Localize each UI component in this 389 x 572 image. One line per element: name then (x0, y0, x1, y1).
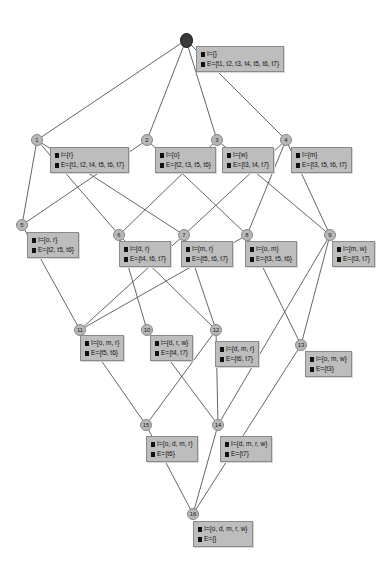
bullet-icon (225, 442, 229, 447)
intent-row: I={d, m, r, w} (225, 439, 267, 449)
lattice-edges (0, 0, 389, 572)
intent-row: I={o, d, m, r, w} (198, 524, 248, 534)
concept-label-box-9: I={m, w}E={t3, t7} (332, 241, 375, 267)
extent-text: E={t2, t5, t6} (38, 245, 74, 255)
extent-row: E={t6} (151, 449, 193, 459)
extent-row: E={t6, t7} (220, 354, 254, 364)
bullet-icon (227, 153, 231, 158)
concept-node-13[interactable]: 13 (295, 339, 307, 351)
extent-text: E={t6} (157, 449, 175, 459)
intent-text: I={o, m} (256, 244, 279, 254)
bullet-icon (85, 351, 89, 356)
extent-row: E={t4, t6, t7} (124, 254, 166, 264)
concept-label-box-3: I={w}E={t3, t4, t7} (222, 147, 274, 173)
intent-text: I={o} (166, 150, 180, 160)
bullet-icon (227, 163, 231, 168)
concept-node-0[interactable] (180, 33, 193, 48)
concept-node-16[interactable]: 16 (187, 508, 199, 520)
intent-row: I={o, m, w} (310, 354, 347, 364)
bullet-icon (55, 153, 59, 158)
intent-text: I={d, r} (130, 244, 149, 254)
intent-row: I={m, w} (337, 244, 370, 254)
extent-text: E={t3} (316, 364, 334, 374)
bullet-icon (220, 357, 224, 362)
bullet-icon (337, 257, 341, 262)
extent-row: E={t3, t4, t7} (227, 160, 269, 170)
intent-row: I={d, r} (124, 244, 166, 254)
extent-text: E={t1, t2, t3, t4, t5, t6, t7} (207, 59, 279, 69)
extent-text: E={t3, t5, t6, t7} (302, 160, 347, 170)
intent-text: I={d, r, w} (161, 338, 188, 348)
concept-label-box-8: I={o, m}E={t3, t5, t6} (245, 241, 297, 267)
concept-node-14[interactable]: 14 (212, 419, 224, 431)
concept-node-1[interactable]: 1 (31, 134, 43, 146)
intent-row: I={o, m} (250, 244, 292, 254)
intent-text: I={m, w} (343, 244, 367, 254)
bullet-icon (160, 163, 164, 168)
bullet-icon (296, 163, 300, 168)
extent-row: E={t3, t7} (337, 254, 370, 264)
extent-row: E={t2, t3, t5, t6} (160, 160, 211, 170)
bullet-icon (55, 163, 59, 168)
intent-text: I={o, d, m, r, w} (204, 524, 248, 534)
intent-row: I={w} (227, 150, 269, 160)
concept-label-box-7: I={m, r}E={t5, t6, t7} (181, 241, 233, 267)
concept-node-6[interactable]: 6 (113, 229, 125, 241)
concept-node-15[interactable]: 15 (140, 419, 152, 431)
concept-label-box-15: I={o, d, m, r}E={t6} (146, 436, 198, 462)
extent-text: E={t5, t6} (91, 348, 118, 358)
bullet-icon (250, 257, 254, 262)
concept-label-box-11: I={o, m, r}E={t5, t6} (80, 335, 124, 361)
intent-row: I={o, d, m, r} (151, 439, 193, 449)
intent-row: I={m, r} (186, 244, 228, 254)
intent-row: I={d, r, w} (155, 338, 188, 348)
extent-text: E={t2, t3, t5, t6} (166, 160, 211, 170)
intent-text: I={w} (233, 150, 248, 160)
concept-node-3[interactable]: 3 (211, 134, 223, 146)
extent-text: E={t6, t7} (226, 354, 253, 364)
extent-row: E={t2, t5, t6} (32, 245, 74, 255)
intent-row: I={o, m, r} (85, 338, 119, 348)
extent-row: E={t5, t6, t7} (186, 254, 228, 264)
bullet-icon (296, 153, 300, 158)
bullet-icon (310, 367, 314, 372)
bullet-icon (337, 247, 341, 252)
extent-row: E={t1, t2, t4, t5, t6, t7} (55, 160, 124, 170)
concept-label-box-14: I={d, m, r, w}E={t7} (220, 436, 272, 462)
intent-row: I={o, r} (32, 235, 74, 245)
bullet-icon (124, 257, 128, 262)
concept-node-7[interactable]: 7 (178, 229, 190, 241)
intent-text: I={d, m, r} (226, 344, 254, 354)
bullet-icon (124, 247, 128, 252)
extent-text: E={t1, t2, t4, t5, t6, t7} (61, 160, 124, 170)
extent-row: E={t5, t6} (85, 348, 119, 358)
concept-label-box-10: I={d, r, w}E={t4, t7} (150, 335, 193, 361)
bullet-icon (155, 341, 159, 346)
extent-text: E={t3, t5, t6} (256, 254, 292, 264)
intent-text: I={m, r} (192, 244, 213, 254)
concept-label-box-6: I={d, r}E={t4, t6, t7} (119, 241, 171, 267)
extent-row: E={} (198, 534, 248, 544)
concept-node-4[interactable]: 4 (280, 134, 292, 146)
bullet-icon (186, 257, 190, 262)
bullet-icon (85, 341, 89, 346)
bullet-icon (310, 357, 314, 362)
concept-node-8[interactable]: 8 (241, 229, 253, 241)
concept-node-9[interactable]: 9 (324, 229, 336, 241)
concept-node-5[interactable]: 5 (16, 219, 28, 231)
concept-node-12[interactable]: 12 (210, 324, 222, 336)
bullet-icon (32, 238, 36, 243)
intent-row: I={r} (55, 150, 124, 160)
concept-node-2[interactable]: 2 (141, 134, 153, 146)
edge-13-16 (193, 345, 301, 514)
bullet-icon (250, 247, 254, 252)
extent-text: E={t7} (231, 449, 249, 459)
extent-text: E={} (204, 534, 216, 544)
intent-text: I={o, d, m, r} (157, 439, 193, 449)
edge-0-1 (37, 40, 186, 140)
intent-row: I={} (201, 49, 279, 59)
edge-9-13 (301, 235, 330, 345)
extent-row: E={t1, t2, t3, t4, t5, t6, t7} (201, 59, 279, 69)
bullet-icon (155, 351, 159, 356)
bullet-icon (198, 527, 202, 532)
